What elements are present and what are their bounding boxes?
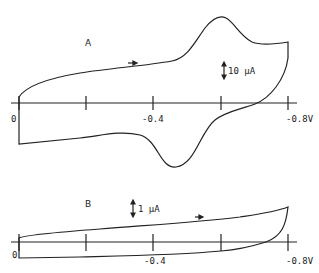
- cyclic-voltammogram-figure: A 10 µA 0 -0.4 -0.8V B 1 µA 0 -0.4 -0.8V: [0, 0, 319, 273]
- panel-a-scale-arrow-down-icon: [222, 75, 226, 79]
- panel-b-tick-label-0: 0: [12, 250, 17, 260]
- panel-b-tick-label-4: -0.8V: [286, 256, 314, 266]
- panel-a-cv-curve: [19, 17, 288, 167]
- panel-a-tick-label-4: -0.8V: [286, 114, 314, 124]
- panel-b-scale-label: 1 µA: [138, 204, 160, 214]
- panel-b-label: B: [85, 199, 91, 209]
- panel-a-tick-label-0: 0: [11, 114, 16, 124]
- panel-b-scale-arrow-down-icon: [131, 213, 135, 217]
- panel-b-scan-arrow-head-icon: [199, 215, 203, 219]
- panel-a: [11, 17, 297, 167]
- panel-b-scale-arrow-up-icon: [131, 200, 135, 204]
- panel-a-scan-arrow-head-icon: [133, 61, 137, 65]
- panel-a-label: A: [85, 38, 92, 48]
- panel-b-tick-label-2: -0.4: [144, 256, 166, 266]
- panel-a-tick-label-2: -0.4: [142, 114, 164, 124]
- panel-a-scale-label: 10 µA: [228, 66, 256, 76]
- panel-a-scale-arrow-up-icon: [222, 62, 226, 66]
